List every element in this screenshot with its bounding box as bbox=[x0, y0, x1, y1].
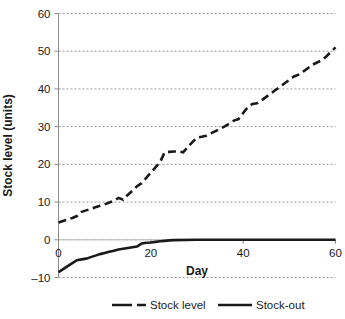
chart-container: –100102030405060 0204060 Stock level (un… bbox=[0, 0, 345, 319]
y-tick-label-60: 60 bbox=[38, 8, 51, 20]
y-tick-label-0: 0 bbox=[44, 234, 50, 246]
x-tick-label-20: 20 bbox=[144, 247, 157, 259]
y-tick-label-20: 20 bbox=[38, 158, 51, 170]
y-tick-label-40: 40 bbox=[38, 83, 51, 95]
y-tick-label-10: 10 bbox=[38, 196, 51, 208]
x-tick-label-0: 0 bbox=[55, 247, 61, 259]
y-tick-label-30: 30 bbox=[38, 121, 51, 133]
chart-background bbox=[0, 0, 345, 319]
x-tick-label-60: 60 bbox=[329, 247, 342, 259]
legend-label-2: Stock-out bbox=[256, 299, 305, 311]
legend-label-1: Stock level bbox=[150, 299, 206, 311]
x-axis-title: Day bbox=[186, 264, 208, 278]
y-axis-title: Stock level (units) bbox=[1, 94, 15, 197]
x-tick-label-40: 40 bbox=[237, 247, 250, 259]
y-tick-label-50: 50 bbox=[38, 45, 51, 57]
y-tick-label--10: –10 bbox=[31, 272, 50, 284]
stock-level-line-chart: –100102030405060 0204060 Stock level (un… bbox=[0, 0, 345, 319]
